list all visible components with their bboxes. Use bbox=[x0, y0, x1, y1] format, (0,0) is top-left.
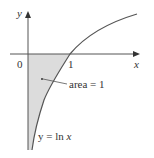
y-axis-label: y bbox=[16, 7, 22, 19]
origin-label: 0 bbox=[17, 58, 23, 70]
curve-equation-prefix: y = ln bbox=[38, 130, 67, 142]
x-axis-arrow-icon bbox=[133, 51, 140, 57]
curve-equation-var: x bbox=[66, 130, 72, 142]
x-axis-label: x bbox=[133, 58, 139, 70]
annotation-dot bbox=[41, 78, 43, 80]
area-annotation-label: area = 1 bbox=[69, 78, 105, 90]
x-tick-label-1: 1 bbox=[68, 58, 74, 70]
y-axis-arrow-icon bbox=[25, 11, 31, 18]
curve-equation-label: y = ln x bbox=[38, 130, 72, 142]
ln-area-diagram: y x 0 1 area = 1 y = ln x bbox=[0, 0, 154, 158]
